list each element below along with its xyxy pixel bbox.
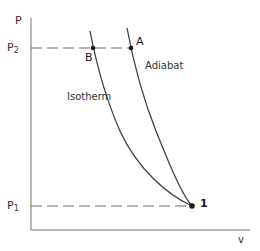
point-b-label: B — [85, 52, 93, 63]
point-b-marker — [91, 46, 96, 51]
point-a-marker — [129, 46, 134, 51]
y-tick-p1-text: P — [7, 199, 14, 212]
y-axis-label: P — [15, 15, 22, 26]
y-tick-label-p1: P1 — [7, 200, 19, 213]
y-tick-label-p2: P2 — [7, 42, 19, 55]
y-tick-p1-subscript: 1 — [14, 204, 19, 213]
adiabat-curve-label: Adiabat — [145, 61, 183, 71]
point-a-label: A — [136, 36, 144, 47]
point-1-label: 1 — [200, 198, 208, 209]
y-tick-p2-text: P — [7, 41, 14, 54]
y-tick-p2-subscript: 2 — [14, 46, 19, 55]
point-1-marker — [189, 203, 195, 209]
pv-diagram-figure: P P2 P1 v A B 1 Adiabat Isotherm — [0, 0, 260, 251]
adiabat-curve — [127, 28, 192, 206]
pv-diagram-plot — [0, 0, 260, 251]
x-axis-label: v — [238, 235, 244, 245]
isotherm-curve-label: Isotherm — [67, 92, 111, 102]
